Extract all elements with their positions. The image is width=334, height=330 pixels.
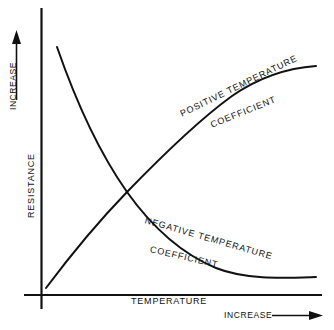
- chart-canvas: [0, 0, 334, 330]
- resistance-vs-temperature-chart: INCREASE RESISTANCE TEMPERATURE INCREASE…: [0, 0, 334, 330]
- x-axis-increase-label: INCREASE: [224, 311, 272, 320]
- y-axis-title: RESISTANCE: [27, 153, 36, 218]
- x-axis-title: TEMPERATURE: [131, 297, 207, 306]
- arrow-up-icon: [12, 30, 21, 44]
- arrow-right-icon: [309, 311, 323, 320]
- negative-temperature-coefficient-curve: [57, 47, 316, 278]
- y-axis-increase-label: INCREASE: [9, 62, 18, 110]
